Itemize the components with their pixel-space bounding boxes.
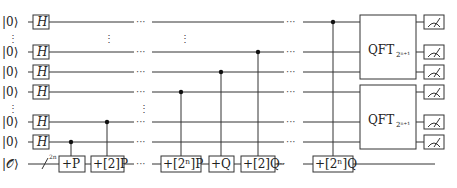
meter-icon bbox=[424, 115, 444, 129]
ket-0-row0: |0⟩ bbox=[2, 15, 18, 29]
controlled-add-2q: +[2]Q bbox=[241, 50, 280, 172]
svg-text:H: H bbox=[36, 135, 48, 149]
ket-0-row2: |0⟩ bbox=[2, 65, 18, 79]
controlled-add-2nq: +[2ⁿ]Q bbox=[313, 20, 357, 172]
qft-block-lower: QFT 2ⁿ⁺¹ bbox=[360, 85, 416, 149]
hadamard-gate-row5: H bbox=[33, 135, 49, 149]
controlled-add-2p: +[2]P bbox=[91, 120, 128, 172]
controlled-add-p: +P bbox=[59, 140, 85, 172]
svg-text:···: ··· bbox=[286, 136, 296, 147]
svg-text:···: ··· bbox=[136, 46, 146, 57]
controlled-add-q: +Q bbox=[209, 70, 234, 172]
svg-text:···: ··· bbox=[136, 116, 146, 127]
circuit-diagram: |0⟩ ⋮ |0⟩ |0⟩ |0⟩ ⋮ |0⟩ |0⟩ |𝒪⟩ bbox=[0, 0, 457, 188]
svg-text:···: ··· bbox=[286, 16, 296, 27]
svg-text:H: H bbox=[36, 115, 48, 129]
meter-icon bbox=[424, 65, 444, 79]
control-dot bbox=[105, 120, 109, 124]
hadamard-gate-row4: H bbox=[33, 115, 49, 129]
svg-text:H: H bbox=[36, 85, 48, 99]
ket-0-row4: |0⟩ bbox=[2, 115, 18, 129]
vdots-left-bottom: ⋮ bbox=[8, 103, 18, 114]
ket-oracle: |𝒪⟩ bbox=[2, 157, 19, 171]
gate-add-q: +Q bbox=[211, 157, 231, 171]
gate-add-2np: +[2ⁿ]P bbox=[163, 157, 203, 171]
svg-text:···: ··· bbox=[286, 86, 296, 97]
svg-text:⋮: ⋮ bbox=[139, 103, 149, 114]
control-dot bbox=[256, 50, 260, 54]
svg-text:···: ··· bbox=[286, 46, 296, 57]
gate-add-2nq: +[2ⁿ]Q bbox=[315, 157, 357, 171]
measurements bbox=[424, 15, 444, 149]
hadamard-gate-row1: H bbox=[33, 45, 49, 59]
svg-text:H: H bbox=[36, 15, 48, 29]
meter-icon bbox=[424, 15, 444, 29]
hadamard-gate-row3: H bbox=[33, 85, 49, 99]
svg-text:···: ··· bbox=[136, 86, 146, 97]
control-dot bbox=[331, 20, 335, 24]
register-size-label: 2n bbox=[49, 153, 57, 160]
gate-add-p: +P bbox=[62, 157, 80, 171]
controlled-add-2np: +[2ⁿ]P bbox=[161, 90, 203, 172]
qft-block-upper: QFT 2ⁿ⁺¹ bbox=[360, 15, 416, 79]
ket-0-row3: |0⟩ bbox=[2, 85, 18, 99]
meter-icon bbox=[424, 135, 444, 149]
ket-0-row1: |0⟩ bbox=[2, 45, 18, 59]
qft-lower-label: QFT bbox=[368, 113, 394, 127]
gate-add-2p: +[2]P bbox=[93, 157, 128, 171]
control-dot bbox=[179, 90, 183, 94]
svg-text:···: ··· bbox=[136, 16, 146, 27]
control-dot bbox=[69, 140, 73, 144]
gate-add-2q: +[2]Q bbox=[243, 157, 280, 171]
register-slash: 2n bbox=[42, 153, 57, 169]
hadamard-gates: H H H H H H bbox=[33, 15, 49, 149]
svg-text:H: H bbox=[36, 65, 48, 79]
svg-text:⋮: ⋮ bbox=[104, 33, 114, 44]
meter-icon bbox=[424, 45, 444, 59]
meter-icon bbox=[424, 85, 444, 99]
control-dot bbox=[219, 70, 223, 74]
svg-text:···: ··· bbox=[286, 116, 296, 127]
hadamard-gate-row2: H bbox=[33, 65, 49, 79]
vdots-left-top: ⋮ bbox=[8, 33, 18, 44]
svg-text:···: ··· bbox=[136, 66, 146, 77]
hadamard-gate-row0: H bbox=[33, 15, 49, 29]
svg-text:···: ··· bbox=[136, 136, 146, 147]
input-labels: |0⟩ ⋮ |0⟩ |0⟩ |0⟩ ⋮ |0⟩ |0⟩ |𝒪⟩ bbox=[2, 15, 19, 171]
svg-text:H: H bbox=[36, 45, 48, 59]
svg-text:⋮: ⋮ bbox=[180, 33, 190, 44]
wires-segment-2 bbox=[152, 22, 284, 164]
qft-upper-subscript: 2ⁿ⁺¹ bbox=[396, 51, 410, 59]
qft-upper-label: QFT bbox=[368, 43, 394, 57]
qft-lower-subscript: 2ⁿ⁺¹ bbox=[396, 121, 410, 129]
svg-text:···: ··· bbox=[286, 66, 296, 77]
ket-0-row5: |0⟩ bbox=[2, 135, 18, 149]
svg-text:···: ··· bbox=[136, 158, 146, 169]
